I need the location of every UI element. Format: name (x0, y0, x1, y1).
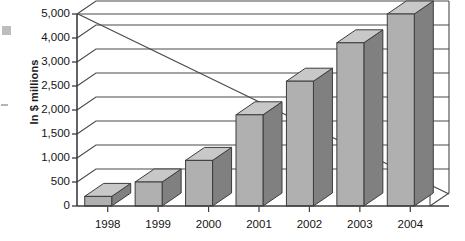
y-axis-tick-labels: 05001,0001,5002,0002,5003,0004,0005,000 (24, 0, 70, 241)
y-axis-tick-label: 2,500 (24, 80, 70, 92)
y-axis-tick-label: 4,000 (24, 32, 70, 44)
x-axis-tick-label: 2004 (380, 219, 440, 231)
bar (186, 147, 232, 206)
y-axis-tick-label: 0 (24, 200, 70, 212)
scan-artifact-tick (1, 104, 8, 106)
y-axis-tick-label: 500 (24, 176, 70, 188)
scan-artifact-square (2, 26, 11, 35)
x-axis-tick-labels: 1998199920002001200220032004 (0, 219, 465, 239)
bar (337, 30, 383, 206)
y-axis-tick-label: 5,000 (24, 8, 70, 20)
bar (286, 68, 332, 206)
bar (236, 102, 282, 206)
bars (85, 1, 434, 212)
y-axis-tick-label: 3,000 (24, 56, 70, 68)
bar (387, 1, 433, 206)
y-axis-tick-label: 1,500 (24, 128, 70, 140)
bar (85, 183, 131, 206)
y-axis-tick-label: 1,000 (24, 152, 70, 164)
bar (135, 169, 181, 206)
y-axis-tick-label: 2,000 (24, 104, 70, 116)
bar-chart: In $ millions 05001,0001,5002,0002,5003,… (0, 0, 465, 241)
